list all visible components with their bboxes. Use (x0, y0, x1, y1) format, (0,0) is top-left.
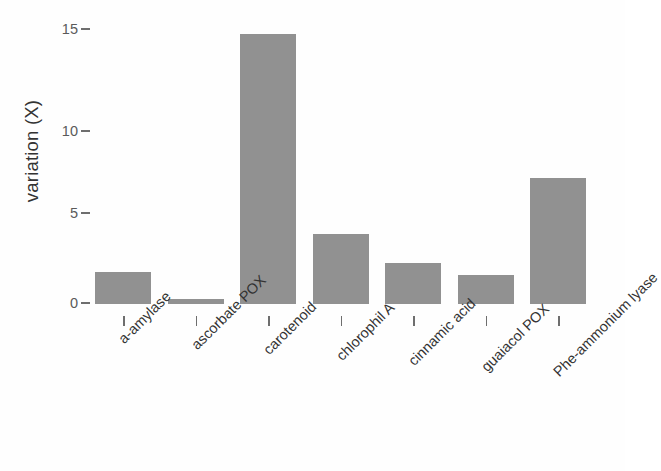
x-tick-mark-3 (341, 316, 343, 326)
x-tick-mark-2 (268, 316, 270, 326)
x-tick-mark-5 (486, 316, 488, 326)
y-tick-label-15: 15 (34, 22, 78, 37)
y-axis-title: variation (X) (21, 31, 43, 271)
y-tick-label-5: 5 (34, 206, 78, 221)
x-tick-label-chlorophil-a: chlorophil A (333, 300, 396, 363)
bar-chlorophil-a[interactable] (313, 234, 369, 304)
y-tick-mark-0 (81, 302, 90, 304)
plot-area (90, 14, 618, 304)
bar-ascorbate-pox[interactable] (168, 299, 224, 304)
bar-phe-ammonium-lyase[interactable] (530, 178, 586, 304)
x-tick-mark-1 (196, 316, 198, 326)
x-tick-mark-4 (413, 316, 415, 326)
y-tick-label-10: 10 (34, 124, 78, 139)
y-tick-label-0: 0 (34, 296, 78, 311)
bar-cinnamic-acid[interactable] (385, 263, 441, 304)
x-tick-label-cinnamic-acid: cinnamic acid (406, 296, 478, 368)
x-tick-label-guaiacol-pox: guaiacol POX (478, 301, 551, 374)
y-tick-mark-10 (81, 130, 90, 132)
y-tick-mark-15 (81, 28, 90, 30)
bar-carotenoid[interactable] (240, 34, 296, 304)
bar-a-amylase[interactable] (95, 272, 151, 304)
x-tick-label-carotenoid: carotenoid (261, 299, 319, 357)
y-tick-mark-5 (81, 212, 90, 214)
x-tick-mark-6 (558, 316, 560, 326)
